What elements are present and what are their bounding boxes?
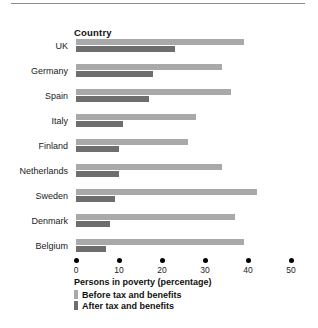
axis-tick-dot — [74, 258, 79, 263]
category-label: Netherlands — [0, 166, 68, 176]
chart-row: Denmark — [0, 213, 318, 238]
axis-tick-dot — [289, 258, 294, 263]
bar-before-tax — [76, 189, 257, 195]
chart-row: Finland — [0, 138, 318, 163]
axis-tick-dot — [160, 258, 165, 263]
bar-before-tax — [76, 214, 235, 220]
legend-item: Before tax and benefits — [74, 289, 182, 300]
chart-row: Spain — [0, 88, 318, 113]
bar-before-tax — [76, 39, 244, 45]
category-label: Belgium — [0, 241, 68, 251]
axis-tick-label: 20 — [157, 265, 166, 275]
category-label: UK — [0, 41, 68, 51]
bar-before-tax — [76, 139, 188, 145]
bar-before-tax — [76, 64, 222, 70]
axis-tick-dot — [117, 258, 122, 263]
bar-after-tax — [76, 96, 149, 102]
bar-before-tax — [76, 164, 222, 170]
axis-tick-dot — [203, 258, 208, 263]
y-axis-heading: Country — [74, 27, 112, 38]
axis-tick-label: 50 — [286, 265, 295, 275]
legend: Before tax and benefitsAfter tax and ben… — [74, 289, 182, 311]
bar-before-tax — [76, 239, 244, 245]
legend-label: Before tax and benefits — [82, 290, 182, 300]
axis-tick-label: 0 — [74, 265, 79, 275]
legend-label: After tax and benefits — [82, 301, 174, 311]
axis-tick-label: 40 — [243, 265, 252, 275]
bar-after-tax — [76, 221, 110, 227]
bar-before-tax — [76, 89, 231, 95]
legend-swatch-before — [74, 290, 78, 299]
chart-row: Italy — [0, 113, 318, 138]
top-divider — [11, 3, 305, 4]
chart-page: Country UKGermanySpainItalyFinlandNether… — [0, 0, 318, 328]
x-axis: 01020304050 — [0, 258, 318, 276]
bar-after-tax — [76, 171, 119, 177]
chart-row: Netherlands — [0, 163, 318, 188]
bar-after-tax — [76, 246, 106, 252]
bar-after-tax — [76, 71, 153, 77]
axis-tick-label: 10 — [114, 265, 123, 275]
chart-row: UK — [0, 38, 318, 63]
category-label: Germany — [0, 66, 68, 76]
chart-row: Sweden — [0, 188, 318, 213]
x-axis-caption: Persons in poverty (percentage) — [74, 277, 212, 287]
bar-before-tax — [76, 114, 196, 120]
bar-after-tax — [76, 196, 115, 202]
axis-tick-dot — [246, 258, 251, 263]
category-label: Sweden — [0, 191, 68, 201]
axis-tick-label: 30 — [200, 265, 209, 275]
chart-row: Germany — [0, 63, 318, 88]
bar-after-tax — [76, 121, 123, 127]
category-label: Denmark — [0, 216, 68, 226]
bar-after-tax — [76, 146, 119, 152]
category-label: Finland — [0, 141, 68, 151]
bar-after-tax — [76, 46, 175, 52]
legend-swatch-after — [74, 301, 78, 310]
category-label: Spain — [0, 91, 68, 101]
legend-item: After tax and benefits — [74, 300, 182, 311]
category-label: Italy — [0, 116, 68, 126]
plot-area: UKGermanySpainItalyFinlandNetherlandsSwe… — [0, 38, 318, 260]
